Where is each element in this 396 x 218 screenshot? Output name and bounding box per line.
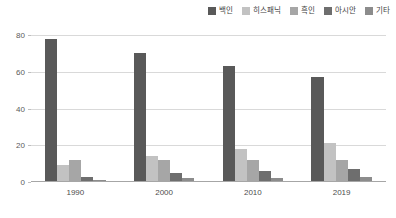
- y-axis-tick-label: 40: [16, 104, 25, 113]
- legend-label: 백인: [219, 6, 233, 15]
- bar[interactable]: [311, 77, 323, 182]
- bar-groups: 1990200020102019: [31, 35, 386, 182]
- x-axis-line: [31, 181, 386, 182]
- y-axis-tick-label: 80: [16, 31, 25, 40]
- legend-swatch-icon: [365, 7, 373, 15]
- bar-group: 2019: [297, 35, 386, 182]
- bar[interactable]: [235, 149, 247, 182]
- bar[interactable]: [146, 156, 158, 182]
- x-axis-tick-label: 2010: [209, 188, 298, 197]
- bar-group: 1990: [31, 35, 120, 182]
- x-axis-tick-label: 2000: [120, 188, 209, 197]
- bar[interactable]: [158, 160, 170, 182]
- legend-label: 아시안: [335, 6, 356, 15]
- x-axis-tick-label: 1990: [31, 188, 120, 197]
- bar-set: [311, 35, 371, 182]
- bar[interactable]: [336, 160, 348, 182]
- bar[interactable]: [69, 160, 81, 182]
- bar-set: [134, 35, 194, 182]
- y-axis-tick-label: 0: [21, 178, 25, 187]
- legend-item[interactable]: 흑인: [290, 6, 315, 15]
- bar[interactable]: [45, 39, 57, 182]
- legend-item[interactable]: 기타: [365, 6, 390, 15]
- legend-swatch-icon: [324, 7, 332, 15]
- legend-label: 흑인: [301, 6, 315, 15]
- legend-item[interactable]: 아시안: [324, 6, 356, 15]
- y-axis-tick-mark: [28, 182, 31, 183]
- bar[interactable]: [247, 160, 259, 182]
- legend-item[interactable]: 히스패닉: [242, 6, 281, 15]
- legend-label: 기타: [376, 6, 390, 15]
- bar-group: 2000: [120, 35, 209, 182]
- bar[interactable]: [223, 66, 235, 182]
- legend-swatch-icon: [290, 7, 298, 15]
- legend-label: 히스패닉: [253, 6, 281, 15]
- bar[interactable]: [324, 143, 336, 182]
- legend-item[interactable]: 백인: [208, 6, 233, 15]
- x-axis-tick-label: 2019: [297, 188, 386, 197]
- bar[interactable]: [57, 165, 69, 182]
- plot-area: 020406080 1990200020102019: [31, 35, 386, 182]
- bar-chart: 백인히스패닉흑인아시안기타 020406080 1990200020102019: [0, 0, 396, 218]
- bar[interactable]: [134, 53, 146, 182]
- y-axis-tick-label: 60: [16, 67, 25, 76]
- bar-group: 2010: [209, 35, 298, 182]
- legend-swatch-icon: [208, 7, 216, 15]
- chart-legend: 백인히스패닉흑인아시안기타: [0, 4, 390, 17]
- y-axis-tick-label: 20: [16, 141, 25, 150]
- legend-swatch-icon: [242, 7, 250, 15]
- bar-set: [45, 35, 105, 182]
- bar-set: [223, 35, 283, 182]
